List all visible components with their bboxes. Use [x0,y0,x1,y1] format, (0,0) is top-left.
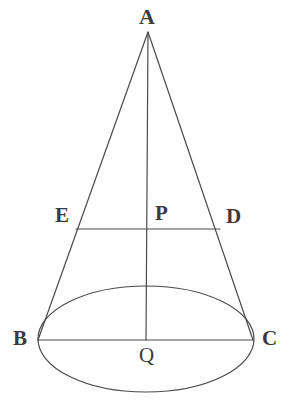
vertex-label-c: C [262,328,277,349]
vertex-label-e: E [55,205,69,226]
axis-line-aq [146,33,148,340]
vertex-label-b: B [13,328,27,349]
vertex-label-q: Q [139,345,154,366]
vertex-label-d: D [226,206,241,227]
vertex-label-p: P [155,203,168,224]
vertex-label-a: A [139,6,155,28]
slant-line-ab [38,32,148,340]
slant-line-ac [148,32,253,340]
cone-diagram: A E P D B C Q [0,0,301,415]
